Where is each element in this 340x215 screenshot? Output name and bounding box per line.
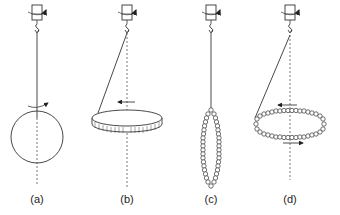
suspension-wire [98,33,127,113]
panel-a-label: (a) [30,193,43,205]
panel-c-label: (c) [205,193,218,205]
panel-b-label: (b) [120,193,133,205]
rotation-diagram [0,0,340,215]
panel-b-disk [92,5,162,188]
disk [92,110,162,126]
motor-icon [281,5,299,33]
panel-a-sphere [11,5,63,185]
suspension-wire [255,35,290,118]
motor-icon [28,5,46,33]
chain-loop [201,108,221,188]
motor-icon [202,5,220,33]
motor-icon [118,5,136,33]
panel-d-horizontal-chain [254,5,326,180]
panel-d-label: (d) [283,193,296,205]
panel-c-vertical-chain [201,5,221,188]
rotation-arrow-icon [28,103,48,107]
